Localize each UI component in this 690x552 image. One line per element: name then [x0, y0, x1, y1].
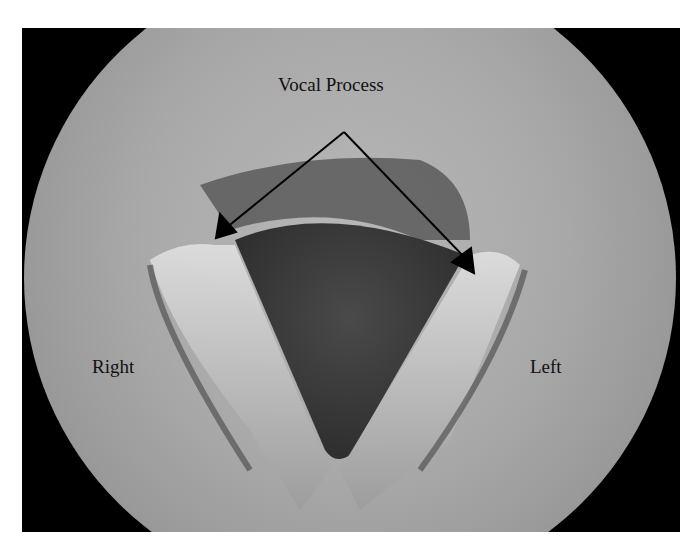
right-side-label: Right [92, 356, 134, 378]
vocal-process-label: Vocal Process [278, 74, 384, 96]
left-side-label: Left [530, 356, 562, 378]
